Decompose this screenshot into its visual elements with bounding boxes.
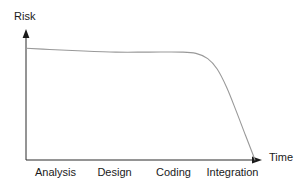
risk-curve bbox=[26, 48, 255, 160]
phase-label-design: Design bbox=[85, 166, 144, 179]
phase-label-integration: Integration bbox=[203, 166, 262, 179]
phase-label-analysis: Analysis bbox=[26, 166, 85, 179]
x-axis-title: Time bbox=[269, 151, 293, 163]
phase-label-coding: Coding bbox=[144, 166, 203, 179]
phase-label-row: Analysis Design Coding Integration bbox=[26, 166, 262, 180]
risk-vs-time-chart: Risk Time Analysis Design Coding Integra… bbox=[0, 0, 303, 187]
chart-canvas bbox=[0, 0, 303, 187]
y-axis-title: Risk bbox=[14, 10, 35, 22]
y-axis-arrowhead bbox=[23, 29, 30, 38]
